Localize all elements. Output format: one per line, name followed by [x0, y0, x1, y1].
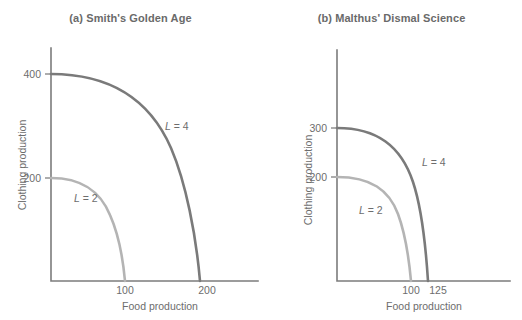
- panel-a-curve-l4: [51, 74, 200, 281]
- panel-b-x-axis-title: Food production: [386, 300, 462, 312]
- panel-b-l2-value: = 2: [365, 204, 383, 216]
- panel-a-axes: [51, 48, 258, 281]
- panel-a-plot: 400 200 100 200 Food production Clothing…: [0, 0, 261, 320]
- figure-root: (a) Smith's Golden Age 400 200 100 200 F…: [0, 0, 522, 320]
- panel-b-curve-l2: [337, 177, 411, 281]
- panel-a-y-axis-title: Clothing production: [16, 120, 28, 211]
- panel-b-plot: 300 200 100 125 Food production Clothing…: [261, 0, 522, 320]
- panel-b-ylabel-300: 300: [309, 122, 327, 134]
- panel-a-l4-value: = 4: [171, 120, 189, 132]
- panel-a-curve-label-l2: L = 2: [74, 192, 98, 204]
- panel-a-xlabel-100: 100: [116, 284, 134, 296]
- panel-b-curve-label-l4: L = 4: [422, 156, 446, 168]
- panel-a-x-axis-title: Food production: [122, 300, 198, 312]
- panel-b-y-axis-title: Clothing production: [302, 135, 314, 226]
- panel-a-l2-value: = 2: [80, 192, 98, 204]
- panel-smiths-golden-age: (a) Smith's Golden Age 400 200 100 200 F…: [0, 0, 261, 320]
- panel-a-curve-label-l4: L = 4: [165, 120, 189, 132]
- panel-a-xlabel-200: 200: [198, 284, 216, 296]
- panel-b-xlabel-100: 100: [402, 284, 420, 296]
- panel-malthus-dismal-science: (b) Malthus' Dismal Science 300 200 100 …: [261, 0, 522, 320]
- panel-b-l4-value: = 4: [428, 156, 446, 168]
- panel-a-ylabel-400: 400: [23, 68, 41, 80]
- panel-b-curve-label-l2: L = 2: [359, 204, 383, 216]
- panel-b-xlabel-125: 125: [429, 284, 447, 296]
